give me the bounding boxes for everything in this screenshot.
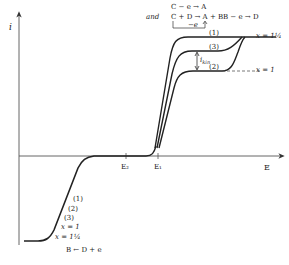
reaction-c-plus-d: C + D → A + B — [171, 13, 223, 21]
reaction-and: and — [146, 13, 160, 21]
reaction-bracket-label: −e — [188, 21, 198, 29]
anodic-wave-3 — [157, 37, 242, 148]
reaction-c-to-a: C − e → A — [171, 3, 207, 11]
anodic-foot — [126, 146, 156, 156]
tick-e2-label: E₂ — [121, 163, 129, 171]
right-label-x-1: x = 1 — [256, 66, 275, 74]
cathodic-label-1: (1) — [73, 195, 83, 203]
y-axis-label: i — [9, 22, 12, 32]
voltammogram-diagram: i E E₂ E₁ ikin (1) (3) (2) x = 1¼ x = 1 … — [0, 0, 289, 265]
cathodic-label-3: (3) — [64, 214, 74, 222]
anodic-wave-2 — [159, 37, 245, 148]
cathodic-label-x1: x = 1 — [61, 223, 80, 231]
reaction-b-to-d: B − e → D — [223, 13, 259, 21]
tick-e1-label: E₁ — [154, 163, 162, 171]
right-label-x-1-25: x = 1¼ — [256, 32, 282, 40]
x-axis-label: E — [264, 163, 270, 172]
cathodic-label-x125: x = 1¼ — [55, 233, 81, 241]
curve-label-3: (3) — [209, 43, 219, 51]
cathodic-label-2: (2) — [68, 205, 78, 213]
reaction-b-from-d: B ← D + e — [66, 246, 102, 254]
curve-label-2: (2) — [209, 63, 219, 71]
curve-label-1: (1) — [209, 29, 219, 37]
